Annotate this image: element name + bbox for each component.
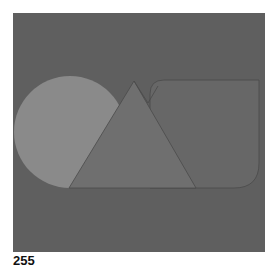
shapes-layer xyxy=(0,0,276,269)
figure-label: 255 xyxy=(13,254,35,268)
